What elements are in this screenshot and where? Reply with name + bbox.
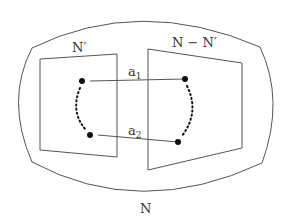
label-N: N <box>140 201 151 216</box>
endpoint-dot <box>182 76 188 82</box>
label-N-minus-N-prime: N − N′ <box>172 35 217 50</box>
endpoint-dot <box>79 78 85 84</box>
label-a2: a2 <box>128 123 142 140</box>
endpoint-dot <box>87 132 93 138</box>
region-N-prime <box>40 54 117 157</box>
label-N-prime: N′ <box>72 40 86 55</box>
dotted-path-right <box>182 86 192 136</box>
outer-region-N <box>19 21 274 191</box>
label-a1: a1 <box>128 64 142 81</box>
endpoint-dot <box>175 139 181 145</box>
diagram-canvas: N′ N − N′ N a1 a2 <box>0 0 288 220</box>
region-N-minus-N-prime <box>148 49 242 170</box>
dotted-path-left <box>76 88 86 130</box>
